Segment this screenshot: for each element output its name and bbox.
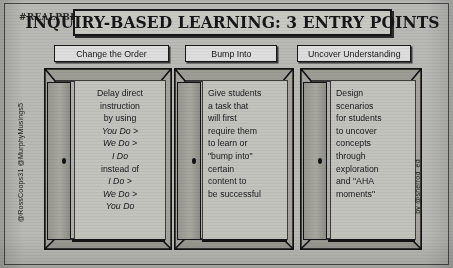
- text-line: will first: [208, 112, 278, 125]
- text-line: I Do: [82, 150, 158, 163]
- text-line: exploration: [336, 163, 406, 176]
- text-line: We Do >: [82, 188, 158, 201]
- infographic-poster: #REALPBL INQUIRY-BASED LEARNING: 3 ENTRY…: [0, 0, 453, 268]
- column-header-uncover-understanding: Uncover Understanding: [297, 45, 411, 62]
- page-title: INQUIRY-BASED LEARNING: 3 ENTRY POINTS: [25, 12, 439, 32]
- doorknob-icon: [318, 158, 322, 164]
- text-line: You Do >: [82, 125, 158, 138]
- text-line: for students: [336, 112, 406, 125]
- text-line: Delay direct: [82, 87, 158, 100]
- door-threshold: [328, 239, 415, 242]
- text-line: by using: [82, 112, 158, 125]
- door-leaf-icon: [303, 82, 327, 240]
- text-line: to uncover: [336, 125, 406, 138]
- door-text-panel: Design scenarios for students to uncover…: [330, 80, 416, 240]
- text-line: concepts: [336, 137, 406, 150]
- column-header-change-the-order: Change the Order: [54, 45, 169, 62]
- text-line: scenarios: [336, 100, 406, 113]
- text-line: through: [336, 150, 406, 163]
- doorknob-icon: [192, 158, 196, 164]
- text-line: certain: [208, 163, 278, 176]
- text-line: You Do: [82, 200, 158, 213]
- text-line: Give students: [208, 87, 278, 100]
- text-line: to learn or: [208, 137, 278, 150]
- doorway-change-the-order: Delay direct instruction by using You Do…: [44, 68, 172, 250]
- text-line: content to: [208, 175, 278, 188]
- column-header-label: Uncover Understanding: [308, 48, 401, 59]
- text-line: require them: [208, 125, 278, 138]
- door-body-text: Delay direct instruction by using You Do…: [82, 87, 158, 213]
- door-text-panel: Give students a task that will first req…: [202, 80, 288, 240]
- text-line: and "AHA: [336, 175, 406, 188]
- column-header-bump-into: Bump Into: [185, 45, 277, 62]
- text-line: be successful: [208, 188, 278, 201]
- text-line: instead of: [82, 163, 158, 176]
- column-header-label: Change the Order: [76, 48, 147, 59]
- door-body-text: Design scenarios for students to uncover…: [336, 87, 406, 200]
- door-text-panel: Delay direct instruction by using You Do…: [74, 80, 166, 240]
- doorway-uncover-understanding: Design scenarios for students to uncover…: [300, 68, 422, 250]
- doorway-bump-into: Give students a task that will first req…: [174, 68, 294, 250]
- door-threshold: [72, 239, 165, 242]
- column-header-label: Bump Into: [211, 48, 251, 59]
- door-threshold: [202, 239, 287, 242]
- door-leaf-icon: [47, 82, 71, 240]
- text-line: We Do >: [82, 137, 158, 150]
- credit-left: @RossCoops31 @MurphyMusings5: [16, 98, 25, 228]
- title-banner: INQUIRY-BASED LEARNING: 3 ENTRY POINTS: [73, 9, 392, 36]
- text-line: "bump into": [208, 150, 278, 163]
- doorknob-icon: [62, 158, 66, 164]
- door-body-text: Give students a task that will first req…: [208, 87, 278, 200]
- door-leaf-icon: [177, 82, 201, 240]
- text-line: a task that: [208, 100, 278, 113]
- text-line: instruction: [82, 100, 158, 113]
- text-line: Design: [336, 87, 406, 100]
- text-line: I Do >: [82, 175, 158, 188]
- credit-right: by @sherrod_ed: [413, 122, 422, 252]
- text-line: moments": [336, 188, 406, 201]
